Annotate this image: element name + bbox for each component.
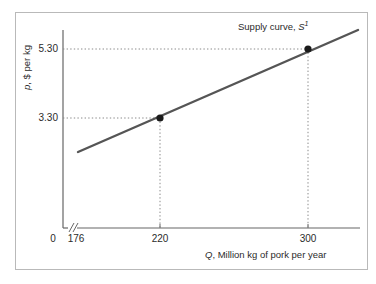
y-axis-label-symbol: p — [21, 85, 32, 90]
figure-container: p, $ per kg Q, Million kg of pork per ye… — [0, 0, 376, 284]
y-tick-label-3-30: 3.30 — [24, 113, 58, 123]
x-tick-label-220: 220 — [140, 234, 180, 244]
x-axis-label-units: , Million kg of pork per year — [212, 249, 326, 260]
data-point-220-3-30 — [156, 114, 163, 121]
x-axis-label: Q, Million kg of pork per year — [205, 250, 326, 260]
x-tick-label-176: 176 — [56, 234, 96, 244]
y-tick-label-5-30: 5.30 — [24, 44, 58, 54]
supply-curve-annotation-text: Supply curve, — [238, 21, 298, 32]
supply-curve-line — [78, 30, 358, 152]
supply-curve-annotation: Supply curve, S1 — [238, 22, 308, 32]
supply-curve-annotation-superscript: 1 — [305, 20, 309, 27]
y-axis-label: p, $ per kg — [21, 28, 32, 108]
x-tick-label-300: 300 — [288, 234, 328, 244]
data-point-300-5-30 — [304, 45, 311, 52]
